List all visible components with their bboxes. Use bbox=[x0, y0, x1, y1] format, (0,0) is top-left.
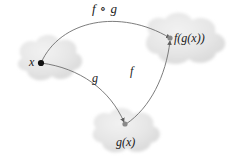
label-x: x bbox=[29, 56, 34, 68]
label-map-f: f bbox=[130, 65, 133, 77]
label-f-of-g-of-x: f(g(x)) bbox=[174, 32, 205, 44]
label-map-g: g bbox=[92, 72, 98, 84]
point-gx bbox=[122, 121, 127, 126]
point-fgx bbox=[167, 35, 172, 40]
label-composition: f ∘ g bbox=[92, 2, 118, 15]
point-x bbox=[38, 60, 44, 66]
function-composition-diagram: f ∘ g x f(g(x)) g(x) g f bbox=[0, 0, 244, 161]
label-g-of-x: g(x) bbox=[116, 136, 135, 148]
cloud-domain bbox=[18, 35, 82, 80]
